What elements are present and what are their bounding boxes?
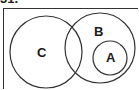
universal-set-box <box>4 9 139 90</box>
set-a-label: A <box>106 50 116 65</box>
set-b-label: B <box>94 24 103 39</box>
set-c-label: C <box>37 45 47 60</box>
venn-diagram: C B A <box>0 0 138 89</box>
